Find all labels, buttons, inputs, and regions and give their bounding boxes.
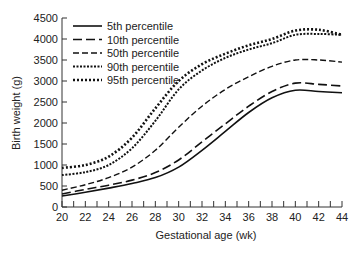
x-tick-label: 40 [289,211,301,223]
series-line [62,59,342,190]
series-line [62,83,342,194]
x-tick-label: 38 [266,211,278,223]
y-tick-label: 2000 [34,117,58,129]
y-tick-label: 1500 [34,138,58,150]
legend-label: 95th percentile [107,74,179,86]
legend-label: 50th percentile [107,47,179,59]
y-tick-label: 4500 [34,12,58,24]
y-axis: 050010001500200025003000350040004500 [34,12,67,213]
x-tick-label: 20 [56,211,68,223]
x-tick-label: 32 [196,211,208,223]
x-tick-label: 22 [79,211,91,223]
y-tick-label: 4000 [34,33,58,45]
x-tick-label: 34 [219,211,231,223]
legend-label: 5th percentile [107,20,173,32]
y-tick-label: 500 [40,180,58,192]
birth-weight-chart: 050010001500200025003000350040004500 202… [0,0,361,254]
x-axis-label: Gestational age (wk) [156,229,257,241]
y-tick-label: 3500 [34,54,58,66]
x-axis: 20222426283032343638404244 [56,201,348,223]
y-axis-label: Birth weight (g) [10,76,22,150]
legend-label: 90th percentile [107,61,179,73]
series-line [62,29,342,168]
legend-label: 10th percentile [107,34,179,46]
x-tick-label: 44 [336,211,348,223]
x-tick-label: 42 [313,211,325,223]
x-tick-label: 30 [173,211,185,223]
x-tick-label: 26 [126,211,138,223]
x-tick-label: 28 [149,211,161,223]
y-tick-label: 1000 [34,159,58,171]
x-tick-label: 24 [103,211,115,223]
legend: 5th percentile10th percentile50th percen… [73,20,179,86]
y-tick-label: 3000 [34,75,58,87]
x-tick-label: 36 [243,211,255,223]
series-line [62,34,342,175]
series-lines [62,29,342,196]
y-tick-label: 2500 [34,96,58,108]
